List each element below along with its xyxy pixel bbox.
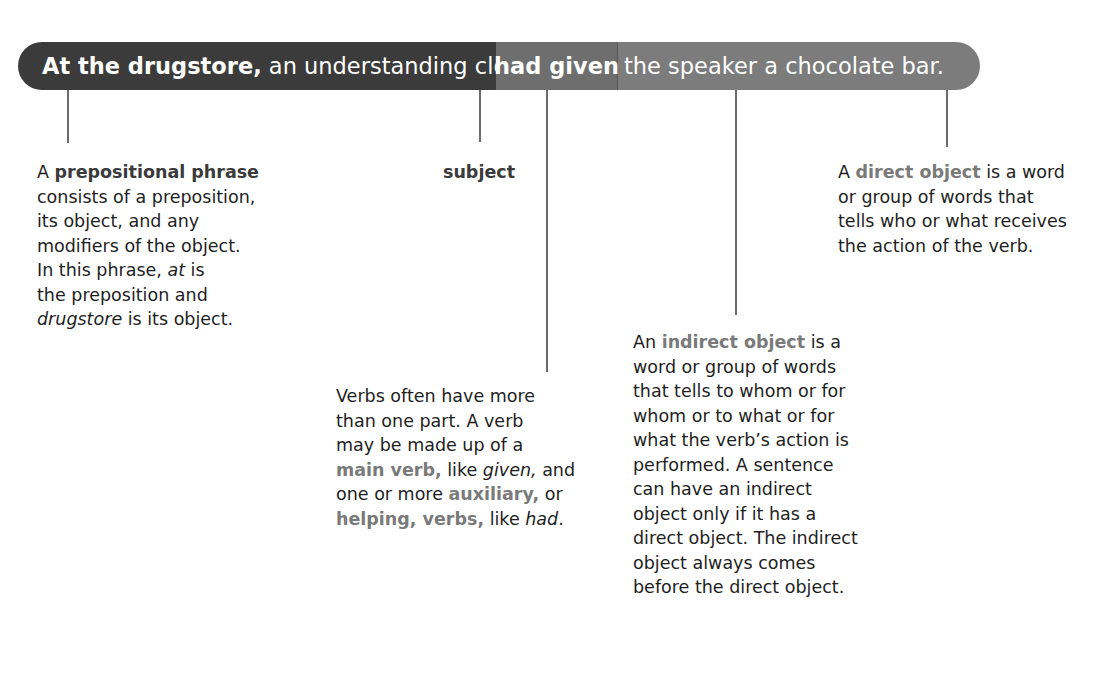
text: and — [537, 460, 576, 480]
annotation-subject: subject — [443, 160, 515, 185]
text: . — [558, 509, 564, 529]
text: that tells to whom or for — [633, 379, 903, 404]
text: like — [442, 460, 483, 480]
text: what the verb’s action is — [633, 428, 903, 453]
text: word or group of words — [633, 355, 903, 380]
example-word-drugstore: drugstore — [37, 309, 122, 329]
term-subject: subject — [443, 162, 515, 182]
text: modifiers of the object. — [37, 234, 307, 259]
text: or group of words that — [838, 185, 1118, 210]
text: is its object. — [122, 309, 233, 329]
sentence-segment-objects: the speaker a chocolate bar. — [618, 42, 980, 90]
text: object always comes — [633, 551, 903, 576]
term-helping-verbs: helping, verbs, — [336, 509, 484, 529]
connector-verb — [546, 90, 548, 372]
term-indirect-object: indirect object — [662, 332, 805, 352]
connector-prepositional — [67, 90, 69, 143]
text: An — [633, 332, 662, 352]
sentence-segment-prepositional-subject: At the drugstore, an understanding clerk — [18, 42, 496, 90]
text: the action of the verb. — [838, 234, 1118, 259]
annotation-direct-object: A direct object is a word or group of wo… — [838, 160, 1118, 258]
example-word-had: had — [525, 509, 558, 529]
text: In this phrase, — [37, 260, 167, 280]
text: like — [484, 509, 525, 529]
text: may be made up of a — [336, 433, 616, 458]
text: consists of a preposition, — [37, 185, 307, 210]
text: one or more — [336, 484, 449, 504]
text: the preposition and — [37, 283, 307, 308]
text: is a word — [981, 162, 1065, 182]
sentence-segment-verb: had given — [496, 42, 618, 90]
text: Verbs often have more — [336, 384, 616, 409]
text: object only if it has a — [633, 502, 903, 527]
example-word-at: at — [167, 260, 185, 280]
term-prepositional-phrase: prepositional phrase — [55, 162, 259, 182]
term-auxiliary: auxiliary, — [449, 484, 540, 504]
term-main-verb: main verb, — [336, 460, 442, 480]
text: performed. A sentence — [633, 453, 903, 478]
term-direct-object: direct object — [856, 162, 981, 182]
text: can have an indirect — [633, 477, 903, 502]
sentence-bar: At the drugstore, an understanding clerk… — [18, 42, 980, 90]
text: its object, and any — [37, 209, 307, 234]
annotation-indirect-object: An indirect object is a word or group of… — [633, 330, 903, 600]
connector-subject — [479, 90, 481, 142]
text: is a — [805, 332, 841, 352]
text: A — [838, 162, 856, 182]
text: or — [539, 484, 562, 504]
text: than one part. A verb — [336, 409, 616, 434]
text: direct object. The indirect — [633, 526, 903, 551]
text: whom or to what or for — [633, 404, 903, 429]
text: tells who or what receives — [838, 209, 1118, 234]
annotation-verb: Verbs often have more than one part. A v… — [336, 384, 616, 531]
connector-direct-object — [946, 90, 948, 147]
connector-indirect-object — [735, 90, 737, 315]
prepositional-phrase-text: At the drugstore, — [42, 53, 262, 79]
text: is — [185, 260, 205, 280]
example-word-given: given, — [483, 460, 537, 480]
text: A — [37, 162, 55, 182]
annotation-prepositional-phrase: A prepositional phrase consists of a pre… — [37, 160, 307, 332]
text: before the direct object. — [633, 575, 903, 600]
